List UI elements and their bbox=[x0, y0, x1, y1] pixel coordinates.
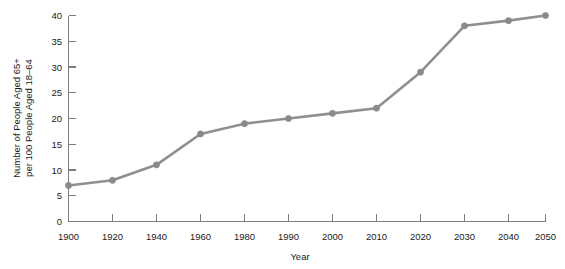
y-tick-labels: 0 5 10 15 20 25 30 35 40 bbox=[51, 10, 62, 227]
y-tick-label: 10 bbox=[51, 165, 62, 176]
data-point bbox=[329, 110, 335, 116]
x-tick-label: 1920 bbox=[102, 231, 123, 242]
x-tick-label: 2000 bbox=[322, 231, 343, 242]
data-point bbox=[65, 182, 71, 188]
y-tick-label: 25 bbox=[51, 87, 62, 98]
data-point bbox=[417, 69, 423, 75]
x-tick-label: 1980 bbox=[234, 231, 255, 242]
x-tick-label: 2020 bbox=[410, 231, 431, 242]
data-point bbox=[197, 131, 203, 137]
x-tick-label: 1940 bbox=[146, 231, 167, 242]
y-tick-marks bbox=[69, 16, 77, 222]
y-tick-label: 5 bbox=[57, 190, 62, 201]
y-tick-label: 15 bbox=[51, 139, 62, 150]
data-point bbox=[461, 23, 467, 29]
data-point bbox=[109, 177, 115, 183]
data-point bbox=[153, 162, 159, 168]
chart-container: 0 5 10 15 20 25 30 35 40 1900 bbox=[0, 0, 565, 269]
data-point bbox=[373, 105, 379, 111]
data-point bbox=[241, 121, 247, 127]
series-markers bbox=[65, 12, 548, 188]
y-axis-title-line1: Number of People Aged 65+ bbox=[11, 58, 22, 178]
x-tick-marks bbox=[69, 214, 546, 222]
x-tick-label: 2050 bbox=[535, 231, 556, 242]
x-tick-label: 2040 bbox=[498, 231, 519, 242]
data-point bbox=[285, 115, 291, 121]
data-point bbox=[542, 12, 548, 18]
x-tick-label: 1990 bbox=[278, 231, 299, 242]
x-tick-label: 1960 bbox=[190, 231, 211, 242]
x-tick-label: 2030 bbox=[454, 231, 475, 242]
x-tick-labels: 1900 1920 1940 1960 1980 1990 2000 2010 … bbox=[58, 231, 556, 242]
y-tick-label: 30 bbox=[51, 62, 62, 73]
y-tick-label: 40 bbox=[51, 10, 62, 21]
line-chart: 0 5 10 15 20 25 30 35 40 1900 bbox=[0, 0, 565, 269]
series-line-path bbox=[69, 16, 546, 186]
data-point bbox=[505, 18, 511, 24]
data-series bbox=[65, 12, 548, 188]
y-axis-title-line2: per 100 People Aged 18–64 bbox=[23, 59, 34, 177]
y-tick-label: 0 bbox=[57, 216, 62, 227]
y-tick-label: 20 bbox=[51, 113, 62, 124]
y-tick-label: 35 bbox=[51, 36, 62, 47]
x-axis-title: Year bbox=[290, 251, 309, 262]
x-tick-label: 1900 bbox=[58, 231, 79, 242]
x-tick-label: 2010 bbox=[366, 231, 387, 242]
